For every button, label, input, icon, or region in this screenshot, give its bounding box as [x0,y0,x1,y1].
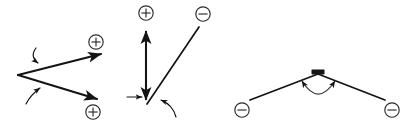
diagonal-electron-arrow [161,100,176,117]
lower-electron-arrow [26,88,40,104]
upper-cation [89,35,103,49]
panel-right [235,70,399,118]
diagonal-bond [147,27,199,104]
top-anion [196,7,210,21]
right-arm [318,74,385,100]
left-anion [235,103,249,117]
left-arm [250,74,318,100]
top-cation [139,6,153,20]
panel-middle [127,6,210,117]
upper-electron-arrow [33,48,38,63]
reaction-mechanism-diagram [0,0,413,134]
lower-cation [86,105,100,119]
right-anion [385,103,399,117]
upper-bond [18,54,101,75]
bridging-double-headed-arc [302,81,335,94]
panel-left [18,35,103,119]
lower-bond [18,75,97,99]
diagram-canvas [0,0,413,134]
bold-bond-marker [312,70,325,75]
